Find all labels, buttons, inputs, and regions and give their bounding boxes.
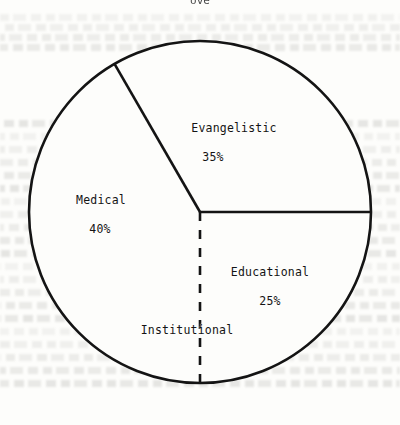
slice-percent-evangelistic: 35% (202, 150, 223, 164)
pie-chart-graphic (0, 0, 400, 425)
slice-label-educational: Educational (231, 265, 309, 279)
slice-label-medical: Medical (76, 193, 126, 207)
slice-label-institutional: Institutional (141, 323, 234, 337)
pie-chart-figure: ove Evangelistic35%Medical40%Educational… (0, 0, 400, 425)
slice-percent-educational: 25% (259, 294, 280, 308)
slice-label-evangelistic: Evangelistic (191, 121, 276, 135)
slice-percent-medical: 40% (89, 222, 110, 236)
